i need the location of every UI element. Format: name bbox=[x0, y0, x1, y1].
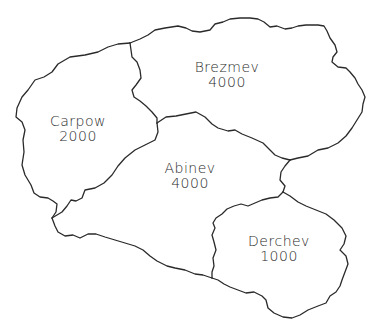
region-value: 2000 bbox=[44, 129, 112, 144]
border-abinev-right bbox=[280, 160, 290, 192]
region-value: 4000 bbox=[190, 75, 264, 90]
border-abinev-outer bbox=[52, 218, 212, 278]
region-name: Abinev bbox=[155, 161, 225, 176]
region-value: 4000 bbox=[155, 176, 225, 191]
border-carpow-brezmev bbox=[130, 43, 157, 123]
region-name: Derchev bbox=[238, 234, 320, 249]
region-name: Carpow bbox=[44, 114, 112, 129]
border-brezmev-abinev bbox=[157, 112, 290, 160]
region-value: 1000 bbox=[238, 249, 320, 264]
region-label-brezmev: Brezmev 4000 bbox=[190, 60, 264, 90]
region-label-derchev: Derchev 1000 bbox=[238, 234, 320, 264]
region-label-abinev: Abinev 4000 bbox=[155, 161, 225, 191]
region-name: Brezmev bbox=[190, 60, 264, 75]
region-label-carpow: Carpow 2000 bbox=[44, 114, 112, 144]
